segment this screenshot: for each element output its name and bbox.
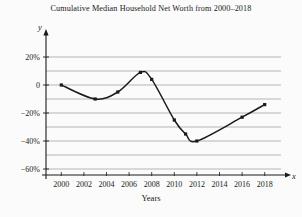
svg-text:20%: 20% xyxy=(25,53,40,62)
svg-text:2004: 2004 xyxy=(99,180,115,189)
data-point-marker xyxy=(116,90,119,93)
svg-text:2012: 2012 xyxy=(189,180,205,189)
data-point-marker xyxy=(139,71,142,74)
svg-text:−40%: −40% xyxy=(21,137,41,146)
svg-text:2002: 2002 xyxy=(76,180,92,189)
data-point-marker xyxy=(60,83,63,86)
svg-text:2000: 2000 xyxy=(53,180,69,189)
svg-text:−60%: −60% xyxy=(21,165,41,174)
data-point-marker xyxy=(150,78,153,81)
x-axis-symbol-label: x xyxy=(291,171,296,181)
data-series-layer xyxy=(60,71,267,143)
y-axis-tick-labels: 20%0−20%−40%−60% xyxy=(21,53,41,174)
x-axis-tick-labels: 2000200220042006200820102012201420162018 xyxy=(53,180,272,189)
svg-text:2018: 2018 xyxy=(257,180,273,189)
svg-text:2014: 2014 xyxy=(212,180,228,189)
data-point-marker xyxy=(94,97,97,100)
series-line xyxy=(61,71,264,141)
data-point-marker xyxy=(195,139,198,142)
svg-text:2008: 2008 xyxy=(144,180,160,189)
x-axis xyxy=(42,172,291,177)
svg-text:0: 0 xyxy=(36,81,40,90)
y-axis xyxy=(43,29,48,179)
y-axis-symbol-label: y xyxy=(37,22,42,32)
x-axis-title: Years xyxy=(0,193,302,203)
data-point-marker xyxy=(263,103,266,106)
svg-text:−20%: −20% xyxy=(21,109,41,118)
svg-text:2016: 2016 xyxy=(234,180,250,189)
chart-plot-area: 2000200220042006200820102012201420162018… xyxy=(0,0,302,217)
chart-figure: Cumulative Median Household Net Worth fr… xyxy=(0,0,302,217)
gridlines xyxy=(46,57,281,169)
data-point-marker xyxy=(241,116,244,119)
data-point-marker xyxy=(173,118,176,121)
svg-text:2006: 2006 xyxy=(121,180,137,189)
data-point-marker xyxy=(184,132,187,135)
svg-text:2010: 2010 xyxy=(166,180,182,189)
